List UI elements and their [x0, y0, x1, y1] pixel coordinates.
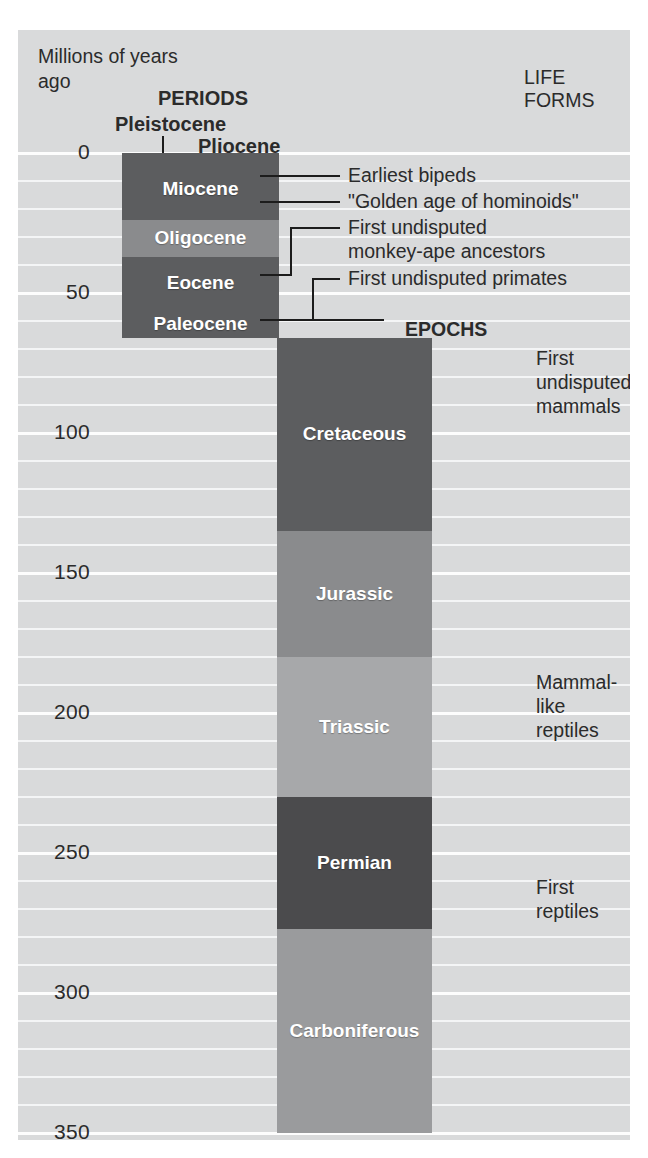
axis-tick-50: 50 — [18, 280, 90, 304]
band-label: Oligocene — [122, 227, 279, 249]
gridline — [18, 292, 630, 295]
band-oligocene: Oligocene — [122, 220, 279, 256]
band-jurassic: Jurassic — [277, 531, 432, 657]
axis-tick-150: 150 — [18, 560, 90, 584]
leader-monkey-ape-stub — [260, 274, 290, 276]
axis-tick-100: 100 — [18, 420, 90, 444]
band-miocene: Miocene — [122, 159, 279, 221]
gridline — [18, 152, 630, 155]
axis-tick-200: 200 — [18, 700, 90, 724]
leader-golden-age — [260, 201, 340, 203]
leader-monkey-ape — [290, 227, 340, 229]
band-eocene: Eocene — [122, 257, 279, 310]
band-label: Triassic — [277, 716, 432, 738]
callout-mammal-like-reptiles: Mammal-like reptiles — [536, 670, 630, 742]
life-forms-header: LIFE FORMS — [524, 66, 630, 112]
timescale-figure: 050100150200250300350 Millions of years … — [18, 30, 630, 1140]
band-triassic: Triassic — [277, 657, 432, 797]
callout-monkey-ape-ancestors: First undisputed monkey-ape ancestors — [348, 215, 545, 263]
band-permian: Permian — [277, 797, 432, 929]
callout-earliest-bipeds: Earliest bipeds — [348, 163, 476, 187]
gridline — [18, 180, 630, 182]
band-label: Jurassic — [277, 583, 432, 605]
axis-tick-300: 300 — [18, 980, 90, 1004]
band-cretaceous: Cretaceous — [277, 338, 432, 531]
leader-primates-riser — [312, 278, 314, 321]
axis-title: Millions of years ago — [38, 44, 178, 94]
axis-tick-350: 350 — [18, 1120, 90, 1140]
band-label: Paleocene — [122, 313, 279, 335]
band-paleocene: Paleocene — [122, 310, 279, 338]
band-label: Permian — [277, 852, 432, 874]
pointer-pleistocene — [162, 136, 164, 153]
band-carboniferous: Carboniferous — [277, 929, 432, 1133]
callout-first-mammals: First undisputed mammals — [536, 346, 630, 418]
periods-header: PERIODS — [158, 87, 248, 110]
band-label: Miocene — [122, 178, 279, 200]
leader-primates — [312, 278, 340, 280]
leader-monkey-ape-riser — [290, 227, 292, 276]
band-label: Cretaceous — [277, 423, 432, 445]
leader-epochs — [260, 319, 384, 321]
epoch-label-pleistocene: Pleistocene — [115, 113, 226, 136]
axis-tick-250: 250 — [18, 840, 90, 864]
callout-first-primates: First undisputed primates — [348, 266, 567, 290]
callout-golden-age: "Golden age of hominoids" — [348, 189, 579, 213]
band-label: Carboniferous — [277, 1020, 432, 1042]
axis-tick-0: 0 — [18, 140, 90, 164]
band-label: Eocene — [122, 272, 279, 294]
callout-first-reptiles: First reptiles — [536, 875, 630, 923]
leader-earliest-bipeds — [260, 175, 340, 177]
